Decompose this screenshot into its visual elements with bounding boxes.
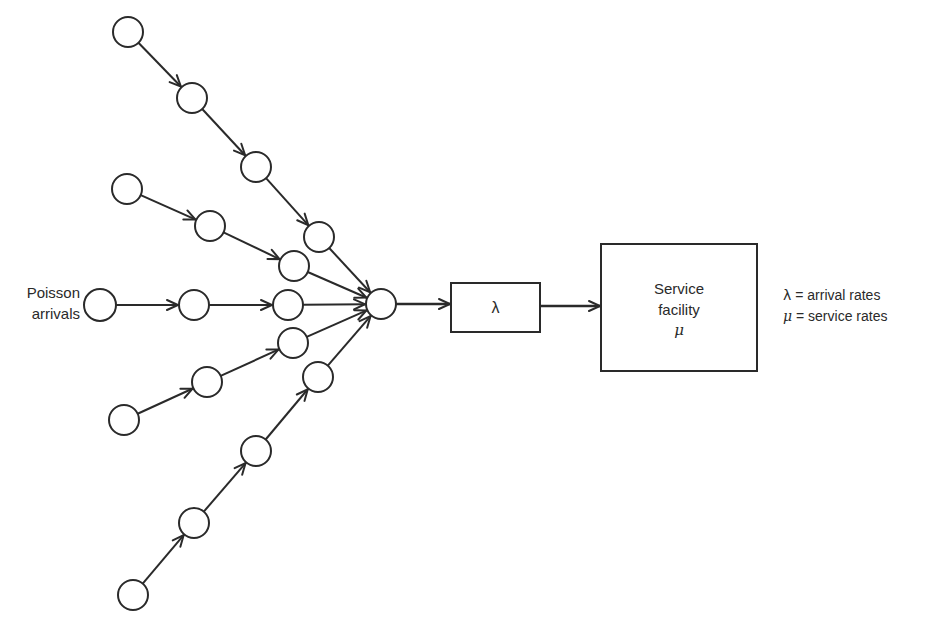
edge-B3-HUB [308,272,368,298]
edge-D2-D3 [221,349,280,376]
legend-symbol-mu: μ [783,308,792,324]
poisson-label-line1: Poisson [27,282,80,303]
legend-equals: = [792,308,808,324]
legend-text-arrival: arrival rates [807,287,880,303]
arrival-node-A4 [304,222,334,252]
merge-node [366,289,396,319]
legend-text-service: service rates [808,308,887,324]
legend-item-service: μ = service rates [783,306,887,327]
legend-item-arrival: λ = arrival rates [783,285,887,306]
arrival-node-B2 [195,211,225,241]
service-facility-label: Service facility μ [601,278,757,341]
arrival-node-C2 [273,290,303,320]
edge-B1-B2 [141,195,197,220]
legend-equals: = [791,287,807,303]
poisson-label-line2: arrivals [27,303,80,324]
arrival-node-D1 [109,405,139,435]
arrival-node-A1 [113,17,143,47]
arrival-node-B1 [112,174,142,204]
service-label-line2: facility [601,299,757,320]
arrival-node-D2 [192,367,222,397]
legend: λ = arrival rates μ = service rates [783,285,887,327]
edge-B2-B3 [224,232,281,259]
arrival-node-C1 [179,290,209,320]
edge-A1-A2 [138,43,181,87]
poisson-source-node [84,289,116,321]
arrival-node-E3 [241,436,271,466]
arrival-node-E4 [303,362,333,392]
service-rate-symbol: μ [601,320,757,341]
arrival-node-B3 [279,251,309,281]
edge-D1-D2 [138,388,194,414]
edge-A3-A4 [266,178,309,226]
arrival-node-E2 [179,508,209,538]
arrival-node-D3 [278,328,308,358]
arrival-node-A3 [241,152,271,182]
arrival-edges [116,43,371,584]
edge-E2-E3 [204,462,246,511]
arrival-node-E1 [118,580,148,610]
lambda-box-symbol: λ [451,283,540,332]
edge-A4-HUB [329,248,371,293]
edge-E4-HUB [328,315,371,365]
edge-C2-HUB [303,304,366,305]
poisson-arrivals-label: Poisson arrivals [27,282,80,324]
arrival-nodes [84,17,396,610]
edge-A2-A3 [202,109,246,156]
edge-D3-HUB [307,310,368,337]
arrival-node-A2 [177,83,207,113]
service-label-line1: Service [601,278,757,299]
edge-E3-E4 [266,388,309,439]
edge-E1-E2 [143,534,185,583]
